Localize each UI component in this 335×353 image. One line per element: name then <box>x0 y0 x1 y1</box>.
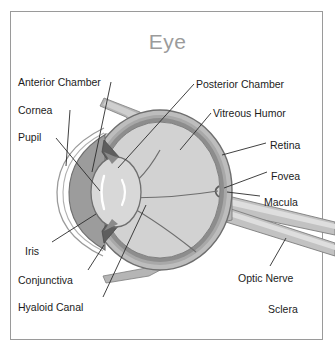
label-optic-nerve: Optic Nerve <box>238 272 293 284</box>
lens <box>91 157 141 227</box>
label-conjunctiva: Conjunctiva <box>18 274 73 286</box>
label-iris: Iris <box>25 245 39 257</box>
label-sclera: Sclera <box>268 303 298 315</box>
label-fovea: Fovea <box>271 170 300 182</box>
label-cornea: Cornea <box>18 104 52 116</box>
eye-diagram-page: Eye <box>0 0 335 353</box>
label-vitreous-humor: Vitreous Humor <box>213 107 286 119</box>
label-anterior-chamber: Anterior Chamber <box>18 76 101 88</box>
label-posterior-chamber: Posterior Chamber <box>196 78 284 90</box>
label-hyaloid-canal: Hyaloid Canal <box>18 301 83 313</box>
label-pupil: Pupil <box>18 131 41 143</box>
label-retina: Retina <box>270 139 300 151</box>
label-macula: Macula <box>264 196 298 208</box>
leader-optic-nerve <box>270 238 286 266</box>
leader-retina <box>222 143 266 155</box>
